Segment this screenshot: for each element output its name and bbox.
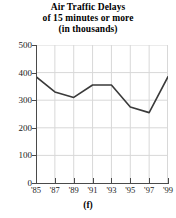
figure-caption: (f) bbox=[0, 200, 176, 210]
chart-title-line-3: (in thousands) bbox=[0, 24, 176, 35]
chart-title: Air Traffic Delays of 15 minutes or more… bbox=[0, 2, 176, 35]
x-tick-mark-97 bbox=[149, 178, 150, 184]
x-tick-mark-91 bbox=[93, 178, 94, 184]
series-polyline bbox=[36, 77, 168, 113]
data-series-line bbox=[36, 45, 168, 183]
plot-area bbox=[36, 45, 168, 183]
y-axis-line bbox=[36, 45, 37, 184]
x-tick-mark-85 bbox=[36, 178, 37, 184]
y-tick-label-500: 500 bbox=[0, 40, 32, 50]
chart-title-line-2: of 15 minutes or more bbox=[0, 13, 176, 24]
x-tick-mark-95 bbox=[130, 178, 131, 184]
x-tick-mark-99 bbox=[168, 178, 169, 184]
y-tick-label-100: 100 bbox=[0, 150, 32, 160]
chart-title-line-1: Air Traffic Delays bbox=[0, 2, 176, 13]
y-tick-label-200: 200 bbox=[0, 123, 32, 133]
x-tick-label-99: '99 bbox=[157, 185, 176, 195]
y-tick-label-400: 400 bbox=[0, 68, 32, 78]
x-tick-mark-89 bbox=[74, 178, 75, 184]
y-tick-label-300: 300 bbox=[0, 95, 32, 105]
x-tick-mark-87 bbox=[55, 178, 56, 184]
x-tick-mark-93 bbox=[111, 178, 112, 184]
chart-figure: Air Traffic Delays of 15 minutes or more… bbox=[0, 0, 176, 218]
